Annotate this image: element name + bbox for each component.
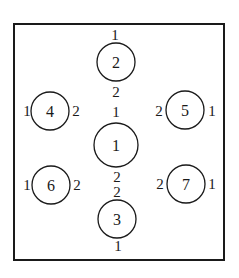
node-3: 3 2 1 xyxy=(98,184,136,254)
node-label: 7 xyxy=(182,176,190,193)
node-label: 1 xyxy=(112,137,120,154)
terminal-label: 2 xyxy=(113,184,121,200)
terminal-label: 1 xyxy=(114,238,122,254)
node-label: 3 xyxy=(113,211,121,228)
node-7: 7 2 1 xyxy=(156,165,216,203)
node-label: 5 xyxy=(181,102,189,119)
node-4: 4 1 2 xyxy=(23,92,80,130)
terminal-label: 2 xyxy=(155,103,163,119)
terminal-label: 2 xyxy=(113,169,121,185)
terminal-label: 1 xyxy=(208,103,216,119)
terminal-label: 2 xyxy=(72,103,80,119)
terminal-label: 1 xyxy=(111,27,119,43)
node-6: 6 1 2 xyxy=(23,166,81,204)
node-label: 6 xyxy=(47,177,55,194)
terminal-label: 2 xyxy=(73,177,81,193)
node-1: 1 1 2 xyxy=(94,104,138,185)
terminal-label: 2 xyxy=(112,84,120,100)
diagram-canvas: 2 1 2 1 1 2 3 2 1 4 1 2 5 2 1 6 1 2 7 xyxy=(0,0,239,278)
terminal-label: 1 xyxy=(112,104,120,120)
terminal-label: 2 xyxy=(156,176,164,192)
node-label: 2 xyxy=(112,54,120,71)
node-5: 5 2 1 xyxy=(155,91,216,129)
node-label: 4 xyxy=(46,103,54,120)
terminal-label: 1 xyxy=(208,176,216,192)
node-2: 2 1 2 xyxy=(97,27,135,100)
terminal-label: 1 xyxy=(23,177,31,193)
terminal-label: 1 xyxy=(23,103,31,119)
